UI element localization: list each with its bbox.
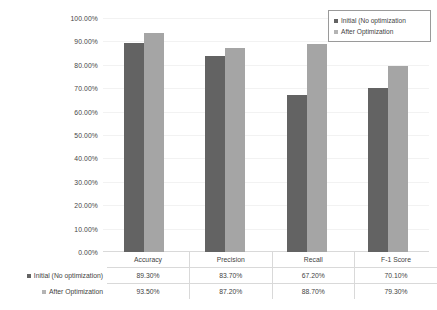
table-row: Initial (No optimization)89.30%83.70%67.… (0, 268, 437, 284)
table-row-label: Initial (No optimization) (34, 272, 103, 279)
bar[interactable] (287, 95, 307, 252)
bar-chart-figure: 100.00%90.00%80.00%70.00%60.00%50.00%40.… (0, 0, 437, 310)
table-row-label: After Optimization (49, 288, 103, 295)
bar[interactable] (144, 33, 164, 252)
bar[interactable] (225, 48, 245, 252)
table-column-header: Accuracy (107, 252, 190, 268)
y-axis-tick-label: 90.00% (74, 38, 98, 45)
chart-legend: Initial (No optimization After Optimizat… (328, 10, 431, 42)
y-axis-tick-label: 70.00% (74, 85, 98, 92)
table-cell: 67.20% (272, 268, 355, 284)
table-row: After Optimization93.50%87.20%88.70%79.3… (0, 284, 437, 300)
bar[interactable] (205, 56, 225, 252)
bar-group (103, 18, 185, 252)
bar[interactable] (124, 43, 144, 252)
table-cell: 88.70% (272, 284, 355, 300)
legend-item-initial[interactable]: Initial (No optimization (334, 15, 427, 26)
y-axis-tick-label: 60.00% (74, 108, 98, 115)
table-cell: 79.30% (355, 284, 437, 300)
bar-group (348, 18, 430, 252)
bar[interactable] (307, 44, 327, 252)
table-cell: 83.70% (190, 268, 273, 284)
bar[interactable] (388, 66, 408, 252)
table-cell: 89.30% (107, 268, 190, 284)
y-axis-tick-label: 10.00% (74, 225, 98, 232)
table-row-header: Initial (No optimization) (0, 268, 107, 284)
table-cell: 87.20% (190, 284, 273, 300)
legend-marker-square-icon (42, 290, 46, 294)
table-header-row: AccuracyPrecisionRecallF-1 Score (0, 252, 437, 268)
bar-groups (103, 18, 429, 252)
plot-area (103, 18, 429, 252)
table-cell: 70.10% (355, 268, 437, 284)
y-axis-tick-label: 20.00% (74, 202, 98, 209)
legend-marker-square-icon (27, 274, 31, 278)
legend-item-label: After Optimization (341, 26, 393, 37)
y-axis-tick-label: 80.00% (74, 61, 98, 68)
legend-item-label: Initial (No optimization (341, 15, 406, 26)
table-row-header: After Optimization (0, 284, 107, 300)
table-column-header: F-1 Score (355, 252, 437, 268)
table-column-header: Precision (190, 252, 273, 268)
y-axis: 100.00%90.00%80.00%70.00%60.00%50.00%40.… (30, 14, 98, 254)
legend-item-after[interactable]: After Optimization (334, 26, 427, 37)
bar[interactable] (368, 88, 388, 252)
table-column-header: Recall (272, 252, 355, 268)
legend-marker-square-icon (334, 19, 338, 23)
bar-group (266, 18, 348, 252)
chart-data-table: AccuracyPrecisionRecallF-1 ScoreInitial … (0, 252, 437, 299)
table-cell: 93.50% (107, 284, 190, 300)
y-axis-tick-label: 50.00% (74, 132, 98, 139)
y-axis-tick-label: 100.00% (70, 15, 98, 22)
y-axis-tick-label: 30.00% (74, 178, 98, 185)
table-corner-cell (0, 252, 107, 268)
y-axis-tick-label: 40.00% (74, 155, 98, 162)
legend-marker-square-icon (334, 30, 338, 34)
bar-group (185, 18, 267, 252)
